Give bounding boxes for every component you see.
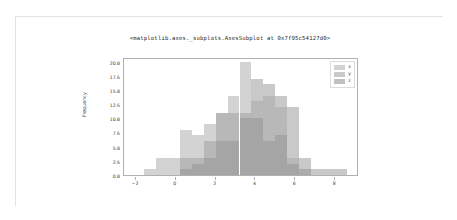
- y-tick-mark: [117, 91, 120, 92]
- x-tick-label: 4: [253, 181, 256, 186]
- histogram-bar: [263, 141, 275, 175]
- histogram-bar: [323, 169, 335, 175]
- plot-axes: x y z: [123, 58, 358, 176]
- histogram-bar: [251, 118, 263, 175]
- x-tick-mark: [254, 177, 255, 180]
- histogram-bar: [335, 169, 347, 175]
- figure-repr-title: <matplotlib.axes._subplots.AxesSubplot a…: [16, 35, 444, 41]
- y-tick-mark: [117, 105, 120, 106]
- legend-item: x: [334, 64, 351, 71]
- y-tick-mark: [117, 148, 120, 149]
- histogram-bar: [240, 118, 252, 175]
- x-tick-mark: [294, 177, 295, 180]
- x-tick-label: 8: [333, 181, 336, 186]
- histogram-bar: [204, 158, 216, 175]
- histogram-bar: [311, 169, 323, 175]
- histogram-bar: [144, 169, 156, 175]
- y-axis-ticks: 0.02.55.07.510.012.515.017.520.0: [94, 58, 120, 176]
- plot-area: [124, 59, 357, 175]
- y-tick-mark: [117, 176, 120, 177]
- histogram-bar: [275, 135, 287, 175]
- notebook-output-card: <matplotlib.axes._subplots.AxesSubplot a…: [15, 16, 443, 206]
- legend: x y z: [330, 61, 355, 88]
- x-tick-label: 6: [293, 181, 296, 186]
- matplotlib-figure: <matplotlib.axes._subplots.AxesSubplot a…: [16, 17, 444, 207]
- histogram-bar: [228, 141, 240, 175]
- histogram-bar: [156, 158, 168, 175]
- x-tick-mark: [175, 177, 176, 180]
- legend-swatch-x: [334, 65, 345, 70]
- legend-item: y: [334, 71, 351, 78]
- x-tick-label: 0: [173, 181, 176, 186]
- histogram-bar: [287, 164, 299, 175]
- x-tick-mark: [135, 177, 136, 180]
- x-axis-ticks: −202468: [123, 177, 358, 191]
- y-axis-label: Frequency: [82, 92, 87, 117]
- legend-label-y: y: [348, 72, 351, 77]
- x-tick-mark: [215, 177, 216, 180]
- histogram-bar: [299, 169, 311, 175]
- histogram-bar: [216, 141, 228, 175]
- y-tick-mark: [117, 63, 120, 64]
- legend-swatch-y: [334, 72, 345, 77]
- legend-swatch-z: [334, 79, 345, 84]
- legend-item: z: [334, 78, 351, 85]
- y-tick-mark: [117, 133, 120, 134]
- legend-label-z: z: [348, 79, 350, 84]
- x-tick-label: 2: [213, 181, 216, 186]
- y-tick-mark: [117, 119, 120, 120]
- histogram-bar: [180, 169, 192, 175]
- histogram-bar: [168, 158, 180, 175]
- y-tick-mark: [117, 162, 120, 163]
- x-tick-label: −2: [132, 181, 139, 186]
- x-tick-mark: [334, 177, 335, 180]
- histogram-bar: [192, 164, 204, 175]
- legend-label-x: x: [348, 65, 351, 70]
- screen-root: <matplotlib.axes._subplots.AxesSubplot a…: [0, 0, 457, 220]
- y-tick-mark: [117, 77, 120, 78]
